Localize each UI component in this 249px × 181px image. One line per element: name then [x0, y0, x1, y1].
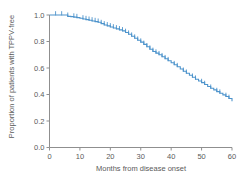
x-tick-label: 20 — [106, 152, 114, 161]
x-tick-label: 50 — [197, 152, 205, 161]
y-tick-label: 0.4 — [34, 90, 44, 99]
km-plot-svg: 0.00.20.40.60.81.00102030405060 — [0, 0, 249, 181]
y-tick-label: 0.6 — [34, 64, 44, 73]
km-chart: 0.00.20.40.60.81.00102030405060 Months f… — [0, 0, 249, 181]
y-tick-label: 0.8 — [34, 37, 44, 46]
x-tick-label: 10 — [76, 152, 84, 161]
y-axis-label: Proportion of patients with TPPV-free — [7, 0, 16, 157]
x-tick-label: 60 — [228, 152, 236, 161]
x-axis-label: Months from disease onset — [51, 164, 231, 173]
y-tick-label: 1.0 — [34, 11, 44, 20]
y-tick-label: 0.0 — [34, 143, 44, 152]
survival-curve — [50, 15, 233, 101]
x-tick-label: 40 — [167, 152, 175, 161]
x-tick-label: 0 — [47, 152, 51, 161]
x-tick-label: 30 — [137, 152, 145, 161]
y-tick-label: 0.2 — [34, 117, 44, 126]
